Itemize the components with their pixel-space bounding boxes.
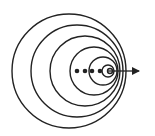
doppler-wavefront-diagram <box>0 0 155 136</box>
source-dot-2 <box>83 69 88 74</box>
source-dot-3 <box>90 69 95 74</box>
source-dot-4 <box>98 69 103 74</box>
source-dot-1 <box>75 69 80 74</box>
